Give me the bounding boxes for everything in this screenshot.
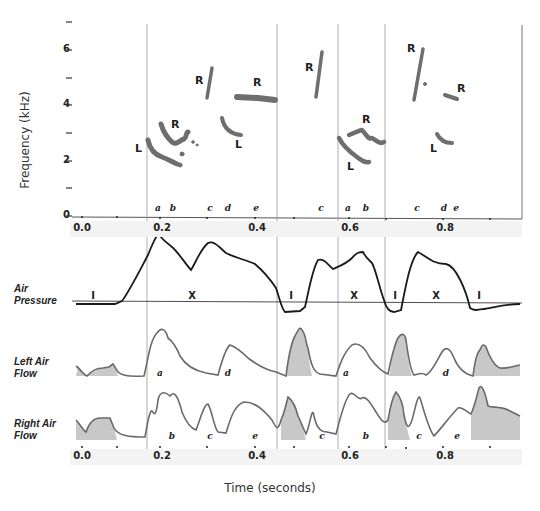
blob-label-L3: L	[347, 160, 354, 173]
spec-seg-a2: a	[345, 203, 351, 213]
spec-seg-e3: e	[453, 203, 459, 213]
bottom-x-tick-0.2: 0.2	[153, 450, 171, 461]
row-label-right-flow-line1: Right Air	[14, 418, 56, 430]
spectrogram-x-axis	[72, 217, 522, 219]
phase-marker-I3: I	[393, 290, 397, 301]
spectrogram-blobs	[148, 49, 457, 167]
right-flow-seg-c3: c	[416, 431, 421, 441]
row-label-right-flow-line2: Flow	[14, 430, 56, 442]
bottom-x-tick-0.6: 0.6	[341, 450, 359, 461]
right-flow-seg-b1: b	[169, 431, 175, 441]
top-x-tick-0.8: 0.8	[436, 222, 454, 233]
row-label-air-pressure: Air Pressure	[14, 283, 57, 307]
top-time-axis-band	[70, 221, 522, 237]
spec-seg-c3: c	[414, 203, 419, 213]
phase-marker-I2: I	[289, 290, 293, 301]
row-label-air-pressure-line1: Air	[14, 283, 57, 295]
top-x-tick-0.4: 0.4	[248, 222, 266, 233]
spec-seg-d1: d	[225, 203, 231, 213]
bottom-x-tick-0.8: 0.8	[436, 450, 454, 461]
phase-marker-X1: X	[188, 290, 196, 301]
left-flow-seg-a2: a	[343, 368, 349, 378]
blob-label-R6: R	[407, 42, 415, 55]
left-flow-seg-d1: d	[225, 368, 231, 378]
blob-label-L1: L	[135, 142, 142, 155]
row-label-left-flow-line2: Flow	[14, 368, 49, 380]
blob-label-R1: R	[171, 118, 179, 131]
phase-marker-X3: X	[432, 290, 440, 301]
right-flow-seg-e3: e	[454, 431, 460, 441]
top-x-tick-0.2: 0.2	[153, 222, 171, 233]
spec-seg-e1: e	[253, 203, 259, 213]
spec-seg-c1: c	[207, 203, 212, 213]
right-flow-seg-b2: b	[363, 431, 369, 441]
spec-seg-b2: b	[363, 203, 369, 213]
blob-label-L4: L	[430, 142, 437, 155]
spec-seg-d3: d	[441, 203, 447, 213]
right-flow-seg-c1: c	[207, 431, 212, 441]
phase-marker-I4: I	[477, 290, 481, 301]
bottom-x-tick-0.0: 0.0	[73, 450, 91, 461]
row-label-right-air-flow: Right Air Flow	[14, 418, 56, 442]
spec-seg-b1: b	[170, 203, 176, 213]
row-label-left-flow-line1: Left Air	[14, 356, 49, 368]
phase-marker-I1: I	[91, 290, 95, 301]
top-x-tick-0.0: 0.0	[73, 222, 91, 233]
air-pressure-line	[76, 234, 520, 312]
right-flow-seg-c2: c	[319, 431, 324, 441]
blob-label-R3: R	[253, 76, 261, 89]
row-label-air-pressure-line2: Pressure	[14, 295, 57, 307]
pressure-baseline	[72, 301, 522, 303]
spec-seg-c2: c	[318, 203, 323, 213]
bottom-x-tick-0.4: 0.4	[248, 450, 266, 461]
y-axis-ticks	[66, 22, 72, 216]
bottom-time-axis-band	[70, 449, 522, 465]
blob-label-R7: R	[457, 82, 465, 95]
blob-label-R2: R	[195, 74, 203, 87]
blob-label-R5: R	[362, 113, 370, 126]
spec-seg-a1: a	[155, 203, 161, 213]
time-axis-label: Time (seconds)	[0, 481, 540, 495]
left-flow-seg-d2: d	[443, 368, 449, 378]
blob-label-L2: L	[235, 138, 242, 151]
top-x-tick-0.6: 0.6	[341, 222, 359, 233]
right-flow-seg-e1: e	[252, 431, 258, 441]
row-label-left-air-flow: Left Air Flow	[14, 356, 49, 380]
left-flow-seg-a1: a	[157, 368, 163, 378]
blob-label-R4: R	[305, 61, 313, 74]
phase-marker-X2: X	[350, 290, 358, 301]
left-air-flow-shaded	[76, 328, 520, 376]
segment-dividers	[147, 24, 385, 450]
